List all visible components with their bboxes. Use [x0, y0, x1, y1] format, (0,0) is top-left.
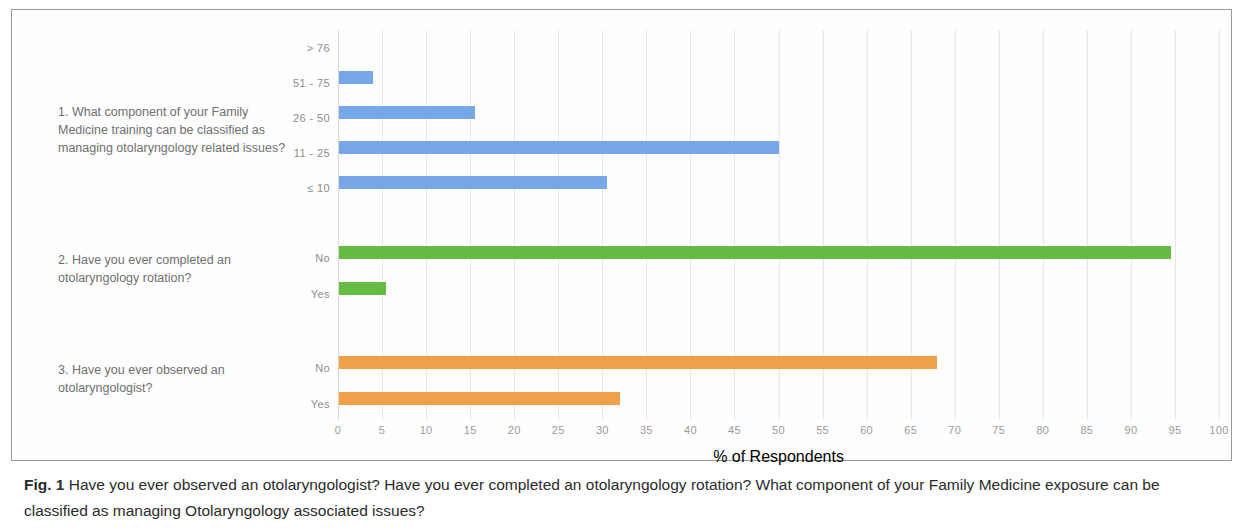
- bar-q1-2650: [338, 106, 475, 119]
- xtick-label-80: 80: [1036, 424, 1049, 436]
- bar-q2-yes: [338, 282, 386, 295]
- xtick-label-20: 20: [508, 424, 521, 436]
- question-label-2: 2. Have you ever completed an otolaryngo…: [58, 251, 288, 287]
- xtick-label-90: 90: [1124, 424, 1137, 436]
- xtick-label-35: 35: [640, 424, 653, 436]
- question-label-1: 1. What component of your Family Medicin…: [58, 103, 288, 157]
- xtick-label-5: 5: [379, 424, 385, 436]
- bar-q2-no: [338, 246, 1171, 259]
- xtick-label-25: 25: [552, 424, 565, 436]
- gridline-100: [1219, 30, 1220, 420]
- figure-caption-text: Have you ever observed an otolaryngologi…: [24, 476, 1160, 519]
- xtick-label-0: 0: [335, 424, 341, 436]
- bar-q1-5175: [338, 71, 373, 84]
- category-label-q1-26-50: 26 - 50: [260, 112, 330, 124]
- category-axis-labels: > 76 51 - 75 26 - 50 11 - 25 ≤ 10 No Yes…: [255, 30, 330, 420]
- value-axis-tick-labels: 0510152025303540455055606570758085909510…: [338, 424, 1219, 444]
- category-label-q1-gt76: > 76: [260, 42, 330, 54]
- category-label-q2-no: No: [260, 252, 330, 264]
- category-label-q3-yes: Yes: [260, 398, 330, 410]
- figure-page: 1. What component of your Family Medicin…: [0, 0, 1243, 532]
- xtick-label-15: 15: [464, 424, 477, 436]
- xtick-label-55: 55: [816, 424, 829, 436]
- xtick-label-60: 60: [860, 424, 873, 436]
- category-label-q1-51-75: 51 - 75: [260, 77, 330, 89]
- xtick-label-75: 75: [992, 424, 1005, 436]
- bar-q1-10: [338, 176, 607, 189]
- category-label-q1-11-25: 11 - 25: [260, 147, 330, 159]
- xtick-label-50: 50: [772, 424, 785, 436]
- xtick-label-95: 95: [1169, 424, 1182, 436]
- xtick-label-10: 10: [420, 424, 433, 436]
- value-axis-title: % of Respondents: [713, 448, 844, 465]
- value-axis-baseline: [338, 30, 339, 420]
- bar-q3-yes: [338, 392, 620, 405]
- xtick-label-40: 40: [684, 424, 697, 436]
- bars-layer: [338, 30, 1219, 420]
- category-label-q2-yes: Yes: [260, 288, 330, 300]
- question-label-3: 3. Have you ever observed an otolaryngol…: [58, 361, 288, 397]
- xtick-label-100: 100: [1209, 424, 1228, 436]
- bar-q1-1125: [338, 141, 779, 154]
- category-label-q3-no: No: [260, 362, 330, 374]
- xtick-label-30: 30: [596, 424, 609, 436]
- plot-area: [338, 30, 1219, 420]
- value-axis-title-wrap: % of Respondents: [338, 448, 1219, 466]
- bar-q3-no: [338, 356, 937, 369]
- figure-label: Fig. 1: [24, 476, 64, 493]
- xtick-label-65: 65: [904, 424, 917, 436]
- xtick-label-70: 70: [948, 424, 961, 436]
- category-label-q1-lte10: ≤ 10: [260, 182, 330, 194]
- figure-caption: Fig. 1 Have you ever observed an otolary…: [24, 472, 1224, 524]
- xtick-label-45: 45: [728, 424, 741, 436]
- xtick-label-85: 85: [1080, 424, 1093, 436]
